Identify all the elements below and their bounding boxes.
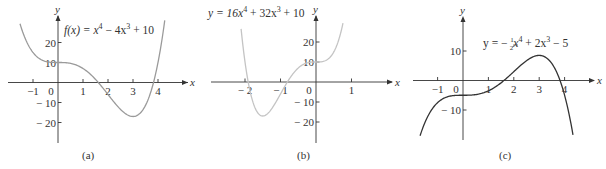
x-tick-label: 0 [306,84,312,96]
caption-b: (b) [297,149,310,162]
x-tick-label: −1 [27,85,39,97]
y-axis-label-b: y [312,3,318,15]
curve-b [241,23,343,116]
equation-c: y = − 12x4 + 2x3 − 5 [483,35,568,52]
x-tick-label: −1 [432,83,444,95]
x-tick-label: 3 [536,83,542,95]
x-axis-arrow-b [387,80,393,85]
y-tick-label: − 20 [36,117,56,129]
y-axis-arrow-c [461,16,466,22]
figure: −1012342010− 10− 20 x y f(x) = x4 − 4x3 … [0,0,606,169]
x-tick-label: 4 [155,85,161,97]
equation-b: y = 16x4 + 32x3 + 10 [207,5,305,20]
y-tick-label: 20 [45,37,57,49]
x-axis-label-a: x [189,76,195,88]
y-axis-label-c: y [459,4,465,16]
x-tick-label: 1 [486,83,492,95]
y-tick-label: − 10 [441,104,461,116]
caption-c: (c) [499,149,512,162]
y-axis-arrow-b [314,15,319,21]
panel-c: −10123410− 10 x y y = − 12x4 + 2x3 − 5 (… [413,4,602,162]
x-axis-label-c: x [596,74,602,86]
caption-a: (a) [82,149,95,162]
y-tick-label: − 10 [36,97,56,109]
y-tick-label: − 20 [294,116,314,128]
panel-a: −1012342010− 10− 20 x y f(x) = x4 − 4x3 … [8,3,195,162]
x-axis-arrow-a [182,80,188,85]
x-tick-label: 0 [48,85,54,97]
y-tick-label: 10 [450,45,462,57]
equation-a: f(x) = x4 − 4x3 + 10 [64,22,154,37]
y-tick-label: − 10 [294,96,314,108]
x-tick-label: 1 [349,84,355,96]
x-tick-label: 2 [511,83,517,95]
x-tick-label: 1 [80,85,86,97]
y-axis-label-a: y [54,3,60,15]
x-axis-arrow-c [589,78,595,83]
y-axis-arrow-a [56,15,61,21]
x-tick-label: 3 [130,85,136,97]
x-tick-label: 0 [453,83,459,95]
panel-b: − 2− 1012010− 10− 20 x y y = 16x4 + 32x3… [207,3,400,162]
x-axis-label-b: x [394,76,400,88]
curve-c [420,55,573,135]
y-tick-label: 20 [303,36,315,48]
